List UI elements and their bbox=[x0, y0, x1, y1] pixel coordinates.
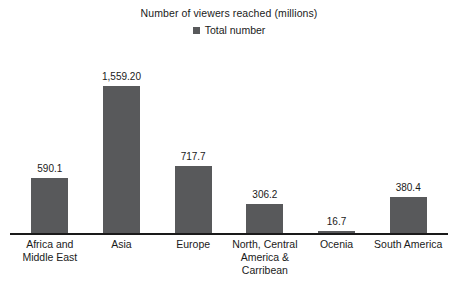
bar-value-label: 590.1 bbox=[37, 163, 62, 175]
category-label-europe: Europe bbox=[157, 238, 229, 277]
bar-slot-africa-and-middle-east: 590.1 bbox=[14, 58, 86, 233]
bars-row: 590.1 1,559.20 717.7 306.2 16.7 380.4 bbox=[14, 58, 444, 233]
category-label-line: South America bbox=[373, 238, 443, 251]
bar-value-label: 717.7 bbox=[181, 151, 206, 163]
bar-rect[interactable] bbox=[31, 178, 68, 234]
bar-rect[interactable] bbox=[390, 197, 427, 233]
category-label-line: Asia bbox=[87, 238, 157, 251]
category-label-line: Middle East bbox=[15, 251, 85, 264]
category-label-line: Ocenia bbox=[302, 238, 372, 251]
bar-value-label: 1,559.20 bbox=[102, 71, 141, 83]
bar-slot-asia: 1,559.20 bbox=[86, 58, 158, 233]
chart-title: Number of viewers reached (millions) bbox=[0, 6, 458, 20]
category-label-ocenia: Ocenia bbox=[301, 238, 373, 277]
plot-area: 590.1 1,559.20 717.7 306.2 16.7 380.4 bbox=[0, 58, 458, 233]
bar-rect[interactable] bbox=[175, 166, 212, 234]
bar-slot-north-central-america-and-carribean: 306.2 bbox=[229, 58, 301, 233]
square-marker-icon bbox=[193, 27, 200, 34]
category-label-line: America & bbox=[230, 251, 300, 264]
x-axis-line bbox=[10, 233, 448, 235]
bar-chart: Number of viewers reached (millions) Tot… bbox=[0, 0, 458, 293]
bar-rect[interactable] bbox=[103, 86, 140, 233]
category-label-line: North, Central bbox=[230, 238, 300, 251]
category-label-asia: Asia bbox=[86, 238, 158, 277]
chart-legend: Total number bbox=[193, 24, 266, 37]
category-label-north-central-america-and-carribean: North, Central America & Carribean bbox=[229, 238, 301, 277]
bar-rect[interactable] bbox=[246, 204, 283, 233]
legend-item-label: Total number bbox=[205, 24, 266, 37]
bar-value-label: 306.2 bbox=[252, 189, 277, 201]
bar-value-label: 380.4 bbox=[396, 182, 421, 194]
chart-header: Number of viewers reached (millions) Tot… bbox=[0, 6, 458, 38]
category-label-south-america: South America bbox=[372, 238, 444, 277]
category-label-line: Europe bbox=[158, 238, 228, 251]
bar-slot-ocenia: 16.7 bbox=[301, 58, 373, 233]
category-label-line: Africa and bbox=[15, 238, 85, 251]
category-label-line: Carribean bbox=[230, 264, 300, 277]
bar-value-label: 16.7 bbox=[327, 216, 346, 228]
bar-slot-europe: 717.7 bbox=[157, 58, 229, 233]
bar-slot-south-america: 380.4 bbox=[372, 58, 444, 233]
category-labels-row: Africa and Middle East Asia Europe North… bbox=[14, 238, 444, 277]
category-label-africa-and-middle-east: Africa and Middle East bbox=[14, 238, 86, 277]
